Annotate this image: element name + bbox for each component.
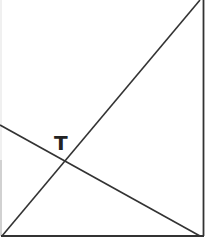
point-label-t: T bbox=[54, 133, 68, 153]
diagonal-rising bbox=[2, 0, 200, 236]
diagonal-falling bbox=[0, 125, 200, 236]
geometry-diagram bbox=[0, 0, 208, 238]
